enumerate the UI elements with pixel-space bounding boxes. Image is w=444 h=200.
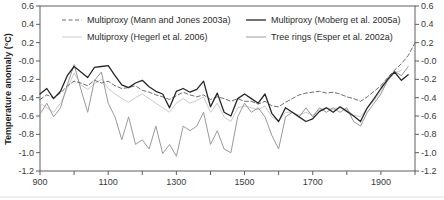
- legend-label-esper: Tree rings (Esper et al. 2002a): [271, 32, 393, 42]
- y-tick-label-left: -0.2: [18, 74, 34, 84]
- x-tick-label: 1500: [235, 177, 255, 187]
- y-tick-label-left: 0.6: [21, 1, 34, 11]
- series-lines: [40, 43, 415, 157]
- y-tick-label-left: -0.8: [18, 129, 34, 139]
- y-tick-label-left: -1.2: [18, 166, 34, 176]
- y-tick-label-right: 0.2: [421, 38, 434, 48]
- series-line-0: [40, 43, 415, 107]
- y-tick-label-right: -0.0: [421, 56, 437, 66]
- y-tick-label-left: -0.4: [18, 93, 34, 103]
- plot-frame: [40, 6, 415, 171]
- legend-label-mann-jones: Multiproxy (Mann and Jones 2003a): [87, 15, 231, 25]
- y-tick-label-right: -0.8: [421, 129, 437, 139]
- y-tick-label-right: 0.6: [421, 1, 434, 11]
- y-axis-title: Temperature anomaly (°C): [3, 33, 13, 144]
- legend-label-moberg: Multiproxy (Moberg et al. 2005a): [271, 15, 401, 25]
- x-tick-label: 1900: [371, 177, 391, 187]
- y-tick-label-right: -1.0: [421, 148, 437, 158]
- y-tick-label-left: 0.4: [21, 19, 34, 29]
- y-tick-label-left: -1.0: [18, 148, 34, 158]
- y-tick-label-right: -0.2: [421, 74, 437, 84]
- x-tick-label: 1700: [303, 177, 323, 187]
- y-tick-label-right: 0.4: [421, 19, 434, 29]
- y-tick-label-right: -0.6: [421, 111, 437, 121]
- axes: 0.60.60.40.40.20.2-0.0-0.0-0.2-0.2-0.4-0…: [18, 1, 436, 187]
- y-tick-label-right: -0.4: [421, 93, 437, 103]
- temperature-reconstruction-chart: Temperature anomaly (°C) 0.60.60.40.40.2…: [0, 0, 444, 200]
- y-tick-label-left: -0.6: [18, 111, 34, 121]
- y-tick-label-left: -0.0: [18, 56, 34, 66]
- y-tick-label-right: -1.2: [421, 166, 437, 176]
- legend-label-hegerl: Multiproxy (Hegerl et al. 2006): [87, 32, 208, 42]
- x-tick-label: 1100: [99, 177, 118, 187]
- legend: Multiproxy (Mann and Jones 2003a) Multip…: [62, 15, 401, 42]
- y-tick-label-left: 0.2: [21, 38, 34, 48]
- figure: Temperature anomaly (°C) 0.60.60.40.40.2…: [0, 0, 444, 200]
- x-tick-label: 900: [32, 177, 47, 187]
- series-line-2: [40, 70, 401, 121]
- series-line-1: [40, 66, 408, 122]
- x-tick-label: 1300: [166, 177, 186, 187]
